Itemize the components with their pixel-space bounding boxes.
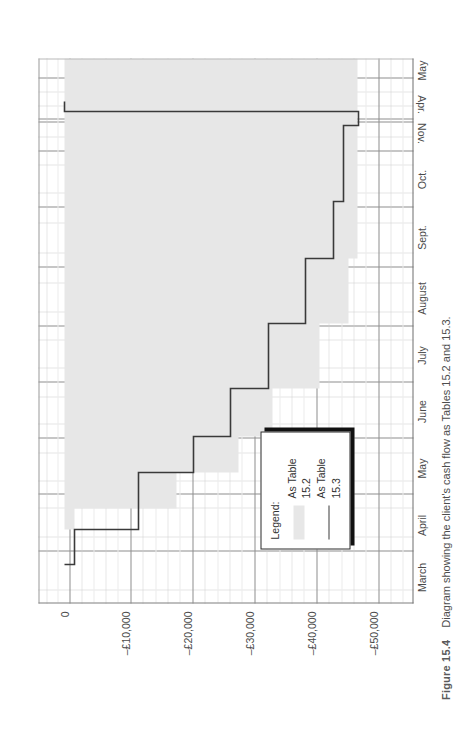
legend-item-label: As Table 15.2 [284,441,312,498]
legend-area-swatch-icon [293,505,304,539]
chart-rotation-wrapper: 0 –£10,000 –£20,000 –£30,000 –£40,000 –£… [30,52,422,681]
y-tick-3: –£30,000 [245,611,256,655]
y-tick-0: 0 [60,611,71,617]
plot-area: Legend: As Table 15.2 As Table 15.3 [38,58,413,603]
legend-item-table-15-3: As Table 15.3 [313,441,341,539]
x-tick-march: March [416,562,427,591]
figure-number: Figure 15.4 [440,640,452,700]
figure-caption: Figure 15.4 Diagram showing the client's… [440,40,452,700]
x-tick-sept: Sept. [416,225,427,250]
x-axis-tick-labels: March April May June July August Sept. O… [416,58,434,603]
y-axis-line [38,602,413,603]
plot-top-border [38,58,39,603]
x-tick-may-1: May [416,458,427,478]
y-tick-4: –£40,000 [307,611,318,655]
series-line-table-15-3 [38,58,413,603]
x-tick-july: July [416,346,427,365]
y-tick-2: –£20,000 [183,611,194,655]
legend-item-label: As Table 15.3 [313,441,341,498]
legend-item-table-15-2: As Table 15.2 [284,441,312,539]
legend-line-swatch-icon [322,505,333,539]
x-tick-nov: Nov. [416,123,427,144]
x-tick-may-2: May [416,60,427,80]
figure-page: 0 –£10,000 –£20,000 –£30,000 –£40,000 –£… [0,0,468,733]
legend-title: Legend: [268,441,281,539]
figure-caption-text: Diagram showing the client's cash flow a… [440,316,452,627]
x-tick-apr: Apr. [416,95,427,114]
y-axis-tick-labels: 0 –£10,000 –£20,000 –£30,000 –£40,000 –£… [38,611,413,681]
x-tick-april: April [416,514,427,535]
x-tick-oct: Oct. [416,169,427,188]
y-tick-1: –£10,000 [121,611,132,655]
y-tick-5: –£50,000 [369,611,380,655]
x-tick-august: August [416,282,427,315]
plot-right-border [38,58,413,59]
x-axis-line [412,58,413,603]
chart-legend: Legend: As Table 15.2 As Table 15.3 [260,431,350,549]
x-tick-june: June [416,400,427,423]
